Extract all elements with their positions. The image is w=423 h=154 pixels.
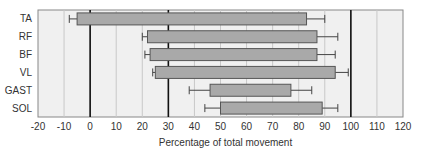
bar <box>150 49 317 61</box>
x-axis-title: Percentage of total movement <box>159 137 293 148</box>
x-tick-label: 40 <box>189 121 201 132</box>
x-tick-label: 50 <box>215 121 227 132</box>
bar-group <box>145 49 335 61</box>
x-tick-label: -10 <box>57 121 72 132</box>
x-tick-label: 30 <box>163 121 175 132</box>
category-label: SOL <box>12 103 32 114</box>
category-label: VL <box>20 67 33 78</box>
bar-group <box>153 66 349 78</box>
x-tick-label: 100 <box>343 121 360 132</box>
x-tick-label: 120 <box>395 121 412 132</box>
x-tick-label: 60 <box>241 121 253 132</box>
x-tick-labels: -20-100102030405060708090100110120 <box>31 121 412 132</box>
chart: -20-100102030405060708090100110120 TARFB… <box>0 0 423 154</box>
x-tick-label: 70 <box>267 121 279 132</box>
x-tick-label: 90 <box>319 121 331 132</box>
category-label: RF <box>19 31 32 42</box>
category-label: TA <box>20 13 32 24</box>
category-labels: TARFBFVLGASTSOL <box>5 13 33 113</box>
bar <box>210 84 291 96</box>
bar <box>221 102 323 114</box>
x-tick-label: 20 <box>137 121 149 132</box>
bar-group <box>205 102 338 114</box>
bar <box>77 13 306 25</box>
x-tick-label: 10 <box>111 121 123 132</box>
category-label: BF <box>19 49 32 60</box>
x-tick-label: 80 <box>293 121 305 132</box>
bar-group <box>142 31 338 43</box>
category-label: GAST <box>5 85 32 96</box>
bar-group <box>69 13 325 25</box>
bar <box>155 66 335 78</box>
x-tick-label: 0 <box>87 121 93 132</box>
x-tick-label: 110 <box>369 121 385 132</box>
bar <box>148 31 317 43</box>
x-tick-label: -20 <box>31 121 46 132</box>
